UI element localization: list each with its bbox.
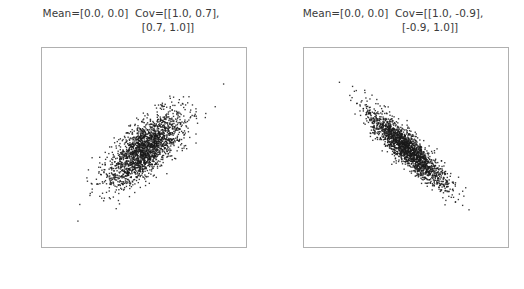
y-tick-mark bbox=[41, 111, 42, 112]
subplot-left-title-line2: [0.7, 1.0]] bbox=[0, 21, 262, 35]
y-tick-mark bbox=[303, 149, 304, 150]
subplot-right-title-line1: Mean=[0.0, 0.0] Cov=[[1.0, -0.9], bbox=[303, 7, 484, 19]
subplot-right: Mean=[0.0, 0.0] Cov=[[1.0, -0.9],[-0.9, … bbox=[262, 0, 524, 289]
subplot-right-scatter-canvas bbox=[304, 48, 509, 248]
y-tick-mark bbox=[41, 74, 42, 75]
subplot-left-axes: -4-2024-4-2024 bbox=[41, 47, 247, 248]
subplot-left-scatter-canvas bbox=[42, 48, 247, 248]
subplot-left-title-line1: Mean=[0.0, 0.0] Cov=[[1.0, 0.7], bbox=[43, 7, 220, 19]
subplot-left-scatter-points bbox=[42, 48, 246, 247]
y-tick-mark bbox=[303, 223, 304, 224]
figure-canvas: Mean=[0.0, 0.0] Cov=[[1.0, 0.7],[0.7, 1.… bbox=[0, 0, 524, 289]
subplot-right-title-line2: [-0.9, 1.0]] bbox=[262, 21, 524, 35]
subplot-right-axes: -4-2024-4-2024 bbox=[303, 47, 509, 248]
y-tick-mark bbox=[303, 74, 304, 75]
y-tick-mark bbox=[303, 111, 304, 112]
subplot-right-scatter-points bbox=[304, 48, 508, 247]
y-tick-mark bbox=[41, 223, 42, 224]
subplot-right-title: Mean=[0.0, 0.0] Cov=[[1.0, -0.9],[-0.9, … bbox=[262, 7, 524, 34]
subplot-left: Mean=[0.0, 0.0] Cov=[[1.0, 0.7],[0.7, 1.… bbox=[0, 0, 262, 289]
y-tick-mark bbox=[41, 186, 42, 187]
y-tick-mark bbox=[41, 149, 42, 150]
y-tick-mark bbox=[303, 186, 304, 187]
subplot-left-title: Mean=[0.0, 0.0] Cov=[[1.0, 0.7],[0.7, 1.… bbox=[0, 7, 262, 34]
